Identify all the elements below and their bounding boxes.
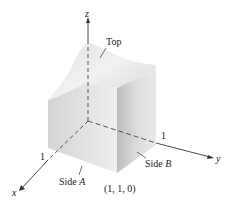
side-a-word: Side [59, 176, 77, 187]
side-a-letter: A [79, 176, 85, 187]
side-a-face [48, 84, 117, 173]
top-label: Top [106, 37, 121, 47]
side-a-label: Side A [59, 177, 85, 187]
side-b-label: Side B [145, 159, 171, 169]
y-axis [156, 143, 210, 157]
side-a-leader-line [79, 166, 82, 175]
y-arrowhead-icon [207, 155, 214, 159]
x-tick-label: 1 [40, 152, 45, 162]
side-b-letter: B [165, 158, 171, 169]
x-axis-label: x [12, 188, 16, 198]
side-b-word: Side [145, 158, 163, 169]
y-axis-label: y [216, 154, 220, 164]
x-axis [22, 160, 48, 188]
corner-point-label: (1, 1, 0) [104, 184, 136, 194]
solid-region-diagram [0, 0, 234, 207]
z-axis-label: z [85, 9, 89, 19]
y-tick-label: 1 [161, 131, 166, 141]
